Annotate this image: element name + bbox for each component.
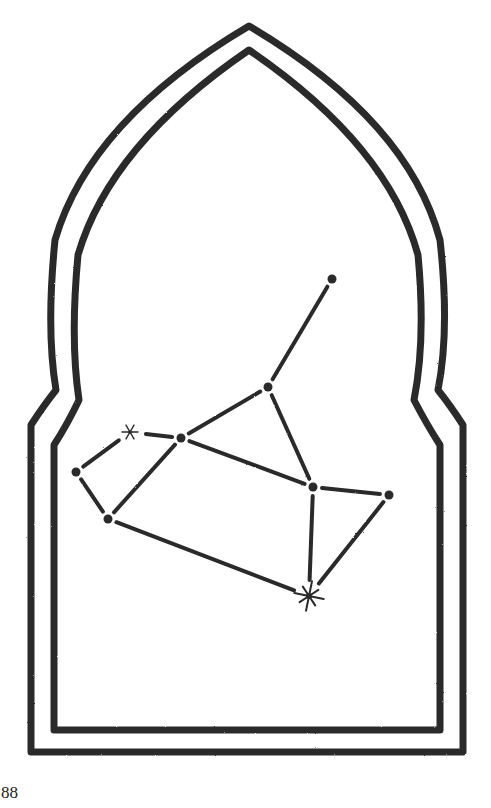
constellation-line xyxy=(272,395,310,479)
constellation-line xyxy=(189,392,260,434)
star-dot-icon xyxy=(264,383,273,392)
star-dot-icon xyxy=(72,468,81,477)
constellation-line xyxy=(189,441,304,484)
inner-arch-border xyxy=(54,50,440,730)
constellation-line xyxy=(273,287,328,380)
constellation-line xyxy=(83,440,119,466)
constellation-line xyxy=(114,445,175,513)
outer-arch-border xyxy=(31,26,463,752)
constellation-line xyxy=(146,434,172,437)
star-dot-icon xyxy=(104,515,113,524)
constellation-line xyxy=(81,479,103,511)
star-dot-icon xyxy=(385,491,394,500)
constellation-line xyxy=(310,496,313,580)
constellation-line xyxy=(116,522,294,590)
constellation-illustration xyxy=(0,0,491,808)
star-dot-icon xyxy=(177,434,186,443)
arched-window-frame xyxy=(31,26,463,752)
star-dot-icon xyxy=(328,275,337,284)
constellation-line xyxy=(322,488,380,494)
bright-star-sparkle-icon xyxy=(294,581,323,610)
constellation-stars xyxy=(72,275,394,611)
star-dot-icon xyxy=(309,483,318,492)
page-number: 88 xyxy=(1,783,18,803)
small-star-sparkle-icon xyxy=(122,425,138,439)
book-page: 88 xyxy=(0,0,491,808)
constellation-line xyxy=(319,502,384,583)
